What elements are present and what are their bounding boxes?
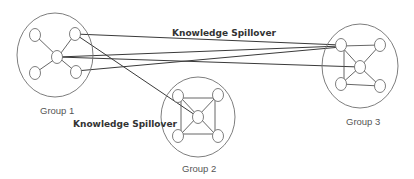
group-2-node-tr [213, 89, 224, 102]
group-1-label: Group 1 [40, 105, 74, 116]
spillover-label-top: Knowledge Spillover [172, 28, 277, 38]
group-2-node-br [213, 130, 224, 143]
group-1-node-tr [70, 28, 81, 41]
group-3-node-bl [336, 78, 347, 91]
group-1: Group 1 [17, 13, 93, 116]
group-1-node-bl [30, 67, 41, 80]
group-1-node-center [52, 51, 63, 64]
group-2-node-center [193, 111, 204, 124]
group-3: Group 3 [322, 24, 398, 127]
group-1-node-br [71, 66, 82, 79]
knowledge-spillover-diagram: Group 1 Group 2 Group 3 Knowledge Spil [0, 0, 414, 179]
group-3-node-tr [375, 39, 386, 52]
group-3-node-br [375, 80, 386, 93]
group-3-node-center [355, 61, 366, 74]
spillover-label-bottom: Knowledge Spillover [73, 119, 178, 129]
group-3-node-tl [336, 39, 347, 52]
group-1-node-tl [30, 29, 41, 42]
group-2-node-tl [173, 90, 184, 103]
edge-g1-g2 [75, 34, 198, 117]
group-3-label: Group 3 [346, 116, 380, 127]
group-2-label: Group 2 [182, 163, 216, 174]
group-2-node-bl [173, 130, 184, 143]
